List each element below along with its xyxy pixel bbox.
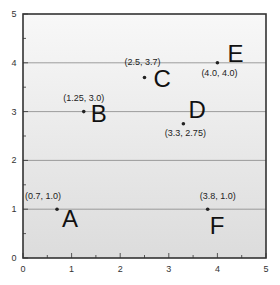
y-tick-label: 1 <box>11 204 16 214</box>
x-tick-label: 4 <box>215 264 220 274</box>
point-letter: A <box>62 205 78 232</box>
point-marker <box>55 207 59 211</box>
point-annotation: (3.3, 2.75) <box>165 128 206 138</box>
x-tick-label: 3 <box>166 264 171 274</box>
point-annotation: (1.25, 3.0) <box>63 93 104 103</box>
point-marker <box>143 76 147 80</box>
point-letter: C <box>154 65 171 92</box>
scatter-chart: 012345 012345 A(0.7, 1.0)B(1.25, 3.0)C(2… <box>0 0 280 285</box>
point-annotation: (0.7, 1.0) <box>25 191 61 201</box>
point-letter: E <box>227 40 243 67</box>
point-annotation: (4.0, 4.0) <box>201 68 237 78</box>
x-tick-label: 1 <box>69 264 74 274</box>
x-tick-label: 5 <box>263 264 268 274</box>
point-marker <box>206 207 210 211</box>
point-marker <box>182 122 186 126</box>
point-annotation: (3.8, 1.0) <box>200 191 236 201</box>
x-axis-tick-labels: 012345 <box>20 264 268 274</box>
x-tick-label: 2 <box>118 264 123 274</box>
point-marker <box>216 61 220 65</box>
y-tick-label: 3 <box>11 107 16 117</box>
point-marker <box>82 110 86 114</box>
point-letter: D <box>188 96 205 123</box>
point-annotation: (2.5, 3.7) <box>124 57 160 67</box>
x-tick-label: 0 <box>20 264 25 274</box>
point-letter: B <box>91 100 107 127</box>
point-letter: F <box>210 212 225 239</box>
y-tick-label: 0 <box>11 253 16 263</box>
y-axis-tick-labels: 012345 <box>11 9 16 263</box>
y-tick-label: 5 <box>11 9 16 19</box>
y-tick-label: 2 <box>11 155 16 165</box>
y-tick-label: 4 <box>11 58 16 68</box>
